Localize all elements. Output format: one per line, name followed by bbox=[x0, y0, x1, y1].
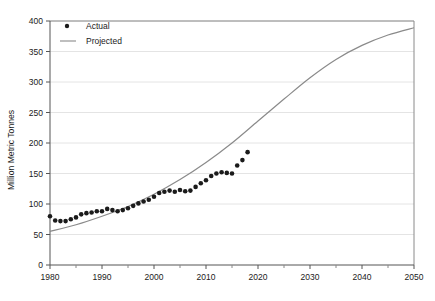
data-point bbox=[225, 171, 230, 176]
data-point bbox=[115, 209, 120, 214]
data-point bbox=[63, 219, 68, 224]
data-point bbox=[89, 210, 94, 215]
y-tick-label: 400 bbox=[29, 16, 43, 26]
data-point bbox=[126, 206, 131, 211]
data-point bbox=[219, 170, 224, 175]
data-point bbox=[193, 185, 198, 190]
y-tick-label: 350 bbox=[29, 47, 43, 57]
chart-background bbox=[0, 0, 435, 301]
data-point bbox=[199, 181, 204, 186]
x-tick-label: 2010 bbox=[197, 272, 216, 282]
data-point bbox=[152, 194, 157, 199]
y-tick-label: 100 bbox=[29, 199, 43, 209]
y-tick-label: 150 bbox=[29, 169, 43, 179]
data-point bbox=[105, 207, 110, 212]
x-tick-label: 2050 bbox=[405, 272, 424, 282]
data-point bbox=[84, 211, 89, 216]
data-point bbox=[209, 174, 214, 179]
data-point bbox=[58, 219, 63, 224]
y-tick-label: 300 bbox=[29, 77, 43, 87]
data-point bbox=[79, 212, 84, 217]
data-point bbox=[53, 218, 58, 223]
dot-marker-icon bbox=[65, 24, 69, 28]
data-point bbox=[162, 190, 167, 195]
data-point bbox=[131, 204, 136, 209]
data-point bbox=[167, 188, 172, 193]
data-point bbox=[214, 171, 219, 176]
data-point bbox=[157, 191, 162, 196]
scatter-line-chart: 050100150200250300350400 198019902000201… bbox=[0, 0, 435, 301]
data-point bbox=[147, 197, 152, 202]
legend-label-projected: Projected bbox=[86, 36, 122, 46]
x-tick-label: 2000 bbox=[145, 272, 164, 282]
data-point bbox=[245, 150, 250, 155]
data-point bbox=[141, 199, 146, 204]
data-point bbox=[183, 189, 188, 194]
data-point bbox=[74, 215, 79, 220]
data-point bbox=[204, 178, 209, 183]
data-point bbox=[136, 201, 141, 206]
data-point bbox=[188, 188, 193, 193]
x-tick-label: 2040 bbox=[353, 272, 372, 282]
chart-container: 050100150200250300350400 198019902000201… bbox=[0, 0, 435, 301]
x-tick-label: 1980 bbox=[41, 272, 60, 282]
data-point bbox=[230, 171, 235, 176]
x-tick-label: 1990 bbox=[93, 272, 112, 282]
x-tick-label: 2030 bbox=[301, 272, 320, 282]
y-tick-label: 50 bbox=[34, 230, 44, 240]
y-tick-label: 200 bbox=[29, 138, 43, 148]
data-point bbox=[110, 208, 115, 213]
data-point bbox=[240, 158, 245, 163]
y-axis-title-text: Million Metric Tonnes bbox=[6, 110, 16, 190]
data-point bbox=[48, 214, 53, 219]
data-point bbox=[173, 190, 178, 195]
data-point bbox=[95, 209, 100, 214]
data-point bbox=[178, 188, 183, 193]
data-point bbox=[100, 209, 105, 214]
legend-label-actual: Actual bbox=[86, 21, 110, 31]
data-point bbox=[235, 163, 240, 168]
data-point bbox=[121, 208, 126, 213]
x-tick-label: 2020 bbox=[249, 272, 268, 282]
data-point bbox=[69, 217, 74, 222]
y-axis-title: Million Metric Tonnes bbox=[6, 110, 16, 190]
y-tick-label: 250 bbox=[29, 108, 43, 118]
y-tick-label: 0 bbox=[38, 260, 43, 270]
